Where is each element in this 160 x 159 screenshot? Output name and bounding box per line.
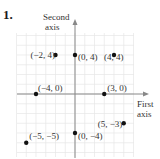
- data-point: [24, 141, 28, 145]
- point-label: (−5, −5): [29, 131, 59, 141]
- y-axis-label-line2: axis: [45, 22, 60, 32]
- point-label: (3, 0): [107, 83, 127, 93]
- point-label: (0, 4): [78, 52, 98, 62]
- point-label: (4, 4): [104, 52, 124, 62]
- coordinate-plane: Second axis First axis (−2, 4)(0, 4)(4, …: [0, 0, 160, 159]
- data-point: [73, 53, 77, 57]
- x-axis-arrow-icon: [143, 92, 149, 97]
- y-axis-arrow-icon: [73, 19, 78, 25]
- x-axis-label-line1: First: [137, 99, 154, 109]
- data-point: [102, 92, 106, 96]
- x-axis-label-line2: axis: [137, 109, 152, 119]
- point-label: (5, −3): [98, 119, 123, 129]
- data-point: [73, 131, 77, 135]
- point-label: (−4, 0): [38, 83, 63, 93]
- point-label: (−2, 4): [31, 50, 56, 60]
- point-label: (0, −4): [78, 131, 103, 141]
- y-axis-label-line1: Second: [43, 12, 70, 22]
